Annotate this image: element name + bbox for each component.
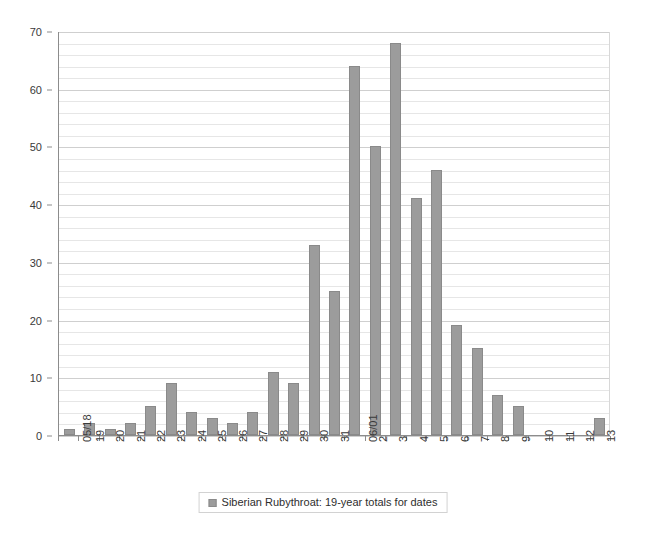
bar-slot [488, 32, 508, 435]
bar-slot [426, 32, 446, 435]
bar[interactable] [288, 383, 299, 435]
bar-slot [141, 32, 161, 435]
bar-slot [283, 32, 303, 435]
x-axis-tick [58, 436, 59, 441]
bar[interactable] [411, 198, 422, 435]
bar-slot [365, 32, 385, 435]
bar[interactable] [268, 372, 279, 435]
x-axis-tick-label: 21 [136, 430, 147, 442]
legend-swatch-icon [209, 499, 217, 507]
x-label-slot: 8 [487, 442, 507, 486]
bar-slot [263, 32, 283, 435]
x-label-slot: 19 [78, 442, 98, 486]
bar[interactable] [166, 383, 177, 435]
legend-label: Siberian Rubythroat: 19-year totals for … [222, 497, 438, 508]
y-axis-tick-label: 10 [30, 373, 42, 384]
x-label-slot: 20 [99, 442, 119, 486]
x-label-slot: 7 [467, 442, 487, 486]
x-label-slot: 10 [528, 442, 548, 486]
bar-slot [304, 32, 324, 435]
bar-slot [100, 32, 120, 435]
bar-slot [528, 32, 548, 435]
bar[interactable] [349, 66, 360, 435]
bar[interactable] [451, 325, 462, 435]
x-label-slot: 2 [365, 442, 385, 486]
x-label-slot: 6 [446, 442, 466, 486]
x-axis-tick-label: 22 [156, 430, 167, 442]
bar[interactable] [370, 146, 381, 435]
x-label-slot: 12 [569, 442, 589, 486]
bar[interactable] [472, 348, 483, 435]
bar-series [59, 32, 610, 435]
bar[interactable] [492, 395, 503, 435]
x-axis-tick-label: 27 [258, 430, 269, 442]
x-axis-tick-label: 24 [197, 430, 208, 442]
y-axis-tick [47, 262, 52, 263]
bar-slot [508, 32, 528, 435]
y-axis-tick-label: 20 [30, 315, 42, 326]
x-axis-tick-label: 13 [606, 430, 617, 442]
bar-slot [447, 32, 467, 435]
bar-slot [324, 32, 344, 435]
bar-slot [467, 32, 487, 435]
plot-wrapper [58, 32, 610, 436]
chart-legend: Siberian Rubythroat: 19-year totals for … [199, 492, 448, 513]
bar-slot [549, 32, 569, 435]
x-label-slot: 9 [508, 442, 528, 486]
x-axis-tick-label: 25 [217, 430, 228, 442]
x-axis-labels: 05/181920212223242526272829303106/012345… [58, 442, 610, 486]
x-label-slot: 3 [385, 442, 405, 486]
y-axis-tick-label: 60 [30, 84, 42, 95]
bar-slot [243, 32, 263, 435]
x-axis-tick-label: 05/18 [82, 414, 93, 442]
x-label-slot: 22 [140, 442, 160, 486]
x-label-slot: 11 [549, 442, 569, 486]
plot-area [58, 32, 610, 436]
x-axis-tick-label: 10 [544, 430, 555, 442]
x-axis-tick-label: 19 [95, 430, 106, 442]
y-axis-tick [47, 89, 52, 90]
y-axis-tick-label: 50 [30, 142, 42, 153]
bar-slot [590, 32, 610, 435]
y-axis-tick [47, 378, 52, 379]
bar-slot [161, 32, 181, 435]
bar-slot [59, 32, 79, 435]
bar[interactable] [513, 406, 524, 435]
bar-slot [181, 32, 201, 435]
y-axis-tick-label: 40 [30, 200, 42, 211]
x-axis-tick-label: 11 [564, 431, 575, 442]
bar-chart: 010203040506070 05/181920212223242526272… [0, 0, 646, 538]
bar[interactable] [431, 170, 442, 435]
y-axis-tick [47, 320, 52, 321]
x-label-slot: 06/01 [344, 442, 364, 486]
y-axis: 010203040506070 [0, 32, 52, 436]
x-label-slot: 24 [181, 442, 201, 486]
x-axis-tick-label: 23 [177, 430, 188, 442]
bar-slot [345, 32, 365, 435]
x-label-slot: 25 [201, 442, 221, 486]
bar[interactable] [329, 291, 340, 435]
y-axis-tick [47, 205, 52, 206]
y-axis-tick-label: 30 [30, 257, 42, 268]
x-label-slot: 31 [324, 442, 344, 486]
x-axis-tick-label: 20 [115, 430, 126, 442]
bar-slot [222, 32, 242, 435]
bar-slot [202, 32, 222, 435]
y-axis-tick-label: 70 [30, 27, 42, 38]
x-axis-tick-label: 30 [320, 430, 331, 442]
bar[interactable] [390, 43, 401, 435]
x-label-slot: 28 [262, 442, 282, 486]
x-axis-tick [78, 436, 79, 441]
x-axis-tick-label: 26 [238, 430, 249, 442]
bar-slot [406, 32, 426, 435]
x-label-slot: 23 [160, 442, 180, 486]
bar[interactable] [309, 245, 320, 435]
bar-slot [120, 32, 140, 435]
bar-slot [386, 32, 406, 435]
x-axis-tick-label: 29 [299, 430, 310, 442]
x-label-slot: 05/18 [58, 442, 78, 486]
y-axis-tick [47, 147, 52, 148]
y-axis-tick [47, 32, 52, 33]
x-label-slot: 21 [119, 442, 139, 486]
bar[interactable] [64, 429, 75, 435]
